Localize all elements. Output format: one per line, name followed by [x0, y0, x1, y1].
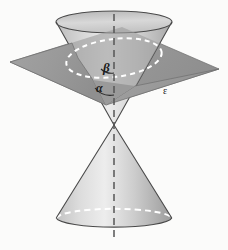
figure-canvas: β α ε — [0, 0, 228, 250]
label-alpha: α — [96, 81, 103, 95]
conic-section-figure: β α ε — [0, 0, 228, 250]
label-plane-epsilon: ε — [163, 85, 167, 96]
label-beta: β — [102, 60, 110, 75]
